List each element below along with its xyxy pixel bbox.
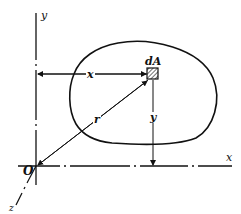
origin-label: O	[23, 165, 33, 177]
area-moment-diagram	[0, 0, 241, 214]
area-element-label: dA	[145, 56, 161, 67]
x-distance-label: x	[86, 69, 95, 80]
y-axis-label: y	[41, 10, 47, 21]
x-axis-label: x	[226, 152, 232, 163]
area-element-dA	[147, 68, 158, 79]
y-distance-label: y	[149, 112, 157, 123]
area-boundary	[70, 41, 217, 144]
radial-distance-label: r	[93, 114, 101, 125]
z-axis-label: z	[9, 204, 14, 213]
